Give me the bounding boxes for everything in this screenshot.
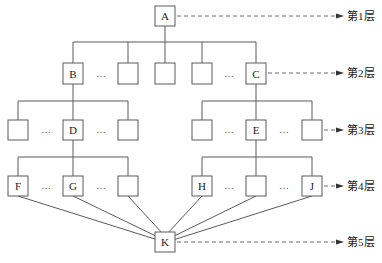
tree-edges (18, 26, 312, 240)
ellipsis: … (224, 68, 234, 79)
ellipsis: … (224, 180, 234, 191)
node-label: C (252, 68, 259, 80)
level-label: 第5层 (347, 235, 375, 248)
level-label: 第3层 (347, 123, 375, 136)
node-label: F (15, 180, 21, 192)
level-indicator-1: 第1层 (177, 9, 375, 22)
arrow-right-icon (336, 71, 344, 76)
ellipsis: … (279, 180, 289, 191)
node-J: J (302, 176, 322, 196)
node-E: E (246, 120, 266, 140)
ellipsis: … (96, 124, 106, 135)
node-C: C (246, 63, 266, 84)
node-label: G (69, 180, 77, 192)
hierarchy-diagram: A B C D E F G H J K (0, 0, 382, 263)
node-A: A (155, 6, 175, 26)
node-empty (246, 176, 266, 196)
level-label: 第2层 (347, 66, 375, 79)
node-K: K (155, 232, 175, 252)
node-label: K (161, 236, 169, 248)
node-label: J (310, 180, 315, 192)
node-H: H (192, 176, 212, 196)
node-B: B (63, 63, 83, 84)
ellipsis: … (224, 124, 234, 135)
node-label: H (198, 180, 206, 192)
node-empty (192, 63, 212, 84)
ellipsis: … (96, 68, 106, 79)
node-empty (302, 120, 322, 140)
node-label: A (161, 10, 169, 22)
arrow-right-icon (336, 128, 344, 133)
ellipsis: … (96, 180, 106, 191)
node-label: E (253, 124, 260, 136)
arrow-right-icon (336, 184, 344, 189)
level-label: 第4层 (347, 179, 375, 192)
level-indicator-5: 第5层 (177, 235, 375, 248)
level-indicator-4: 第4层 (324, 179, 375, 192)
node-label: D (69, 124, 77, 136)
node-empty (118, 63, 138, 84)
level-label: 第1层 (347, 9, 375, 22)
node-empty (118, 176, 138, 196)
arrow-right-icon (336, 14, 344, 19)
ellipsis: … (279, 124, 289, 135)
ellipsis: … (41, 124, 51, 135)
node-empty (155, 63, 175, 84)
node-empty (8, 120, 28, 140)
ellipsis: … (41, 180, 51, 191)
node-G: G (63, 176, 83, 196)
level-indicator-3: 第3层 (324, 123, 375, 136)
node-F: F (8, 176, 28, 196)
node-empty (192, 120, 212, 140)
node-empty (118, 120, 138, 140)
node-label: B (69, 68, 76, 80)
level-indicator-2: 第2层 (268, 66, 375, 79)
arrow-right-icon (336, 240, 344, 245)
node-D: D (63, 120, 83, 140)
